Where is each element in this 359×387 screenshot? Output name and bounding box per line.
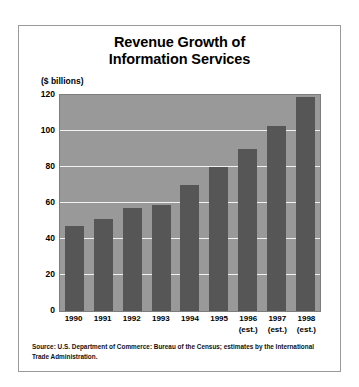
x-tick-1991: 1991	[88, 314, 117, 335]
bar-1997	[267, 126, 286, 311]
x-tick-1993: 1993	[146, 314, 175, 335]
x-tick-1995: 1995	[205, 314, 234, 335]
x-tick-1996: 1996(est.)	[234, 314, 263, 335]
x-tick-year: 1995	[210, 314, 228, 323]
x-tick-1990: 1990	[59, 314, 88, 335]
x-tick-year: 1990	[65, 314, 83, 323]
x-tick-year: 1991	[94, 314, 112, 323]
y-tick-20: 20	[15, 269, 55, 279]
bar-1990	[65, 226, 84, 311]
bar-1996	[238, 149, 257, 311]
x-tick-1997: 1997(est.)	[263, 314, 292, 335]
x-tick-estimate-note: (est.)	[263, 325, 292, 336]
x-tick-1998: 1998(est.)	[292, 314, 321, 335]
x-tick-year: 1993	[152, 314, 170, 323]
bar-1993	[152, 205, 171, 311]
x-axis-tick-labels: 1990199119921993199419951996(est.)1997(e…	[59, 314, 321, 335]
y-tick-0: 0	[15, 305, 55, 315]
source-note: Source: U.S. Department of Commerce: Bur…	[32, 342, 327, 361]
y-axis-units-label: ($ billions)	[41, 76, 84, 86]
bar-1994	[180, 185, 199, 311]
y-tick-40: 40	[15, 233, 55, 243]
chart-title: Revenue Growth of Information Services	[19, 34, 340, 68]
chart-figure: Revenue Growth of Information Services (…	[18, 25, 341, 372]
bar-1992	[123, 208, 142, 311]
x-tick-year: 1998	[298, 314, 316, 323]
x-tick-year: 1992	[123, 314, 141, 323]
bar-1991	[94, 219, 113, 311]
chart-title-line-2: Information Services	[19, 51, 340, 68]
chart-title-line-1: Revenue Growth of	[19, 34, 340, 51]
y-tick-120: 120	[15, 89, 55, 99]
plot-area	[59, 94, 321, 312]
x-tick-estimate-note: (est.)	[234, 325, 263, 336]
y-tick-100: 100	[15, 125, 55, 135]
x-tick-year: 1994	[181, 314, 199, 323]
bar-1995	[209, 167, 228, 311]
y-tick-80: 80	[15, 161, 55, 171]
x-tick-estimate-note: (est.)	[292, 325, 321, 336]
x-tick-year: 1997	[268, 314, 286, 323]
x-tick-1992: 1992	[117, 314, 146, 335]
bar-1998	[296, 97, 315, 311]
bar-series	[60, 95, 320, 311]
x-tick-year: 1996	[239, 314, 257, 323]
y-tick-60: 60	[15, 197, 55, 207]
x-tick-1994: 1994	[175, 314, 204, 335]
